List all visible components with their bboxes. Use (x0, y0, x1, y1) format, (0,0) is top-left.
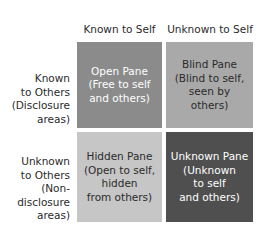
pane-description-line: (Free to self (88, 78, 150, 92)
pane-description-line: from others) (84, 191, 155, 205)
open-pane-text: Open Pane (Free to self and others) (88, 65, 150, 106)
blind-pane-text: Blind Pane (Blind to self, seen by other… (170, 58, 249, 112)
row-label-line: areas) (17, 209, 70, 223)
pane-description-line: to self (171, 177, 249, 191)
row-label-unknown-to-others: Unknown to Others (Non- disclosure areas… (17, 155, 70, 223)
pane-description-line: hidden (84, 177, 155, 191)
pane-title: Unknown Pane (171, 150, 249, 164)
pane-title: Blind Pane (170, 58, 249, 72)
unknown-pane-text: Unknown Pane (Unknown to self and others… (171, 150, 249, 204)
row-label-line: disclosure (17, 196, 70, 210)
pane-description-line: and others) (171, 191, 249, 205)
row-label-line: to Others (12, 86, 70, 100)
row-label-line: (Disclosure (12, 99, 70, 113)
row-label-line: (Non- (17, 182, 70, 196)
hidden-pane: Hidden Pane (Open to self, hidden from o… (77, 132, 162, 222)
pane-description-line: and others) (88, 92, 150, 106)
pane-description-line: (Open to self, (84, 164, 155, 178)
row-label-line: to Others (17, 169, 70, 183)
pane-description-line: (Blind to self, (170, 72, 249, 86)
column-header-known-to-self: Known to Self (77, 22, 162, 36)
pane-description-line: (Unknown (171, 164, 249, 178)
open-pane: Open Pane (Free to self and others) (77, 42, 162, 128)
row-label-known-to-others: Known to Others (Disclosure areas) (12, 72, 70, 126)
blind-pane: Blind Pane (Blind to self, seen by other… (166, 42, 253, 128)
column-header-unknown-to-self: Unknown to Self (163, 22, 257, 36)
row-label-line: Known (12, 72, 70, 86)
row-label-line: Unknown (17, 155, 70, 169)
unknown-pane: Unknown Pane (Unknown to self and others… (166, 132, 253, 222)
hidden-pane-text: Hidden Pane (Open to self, hidden from o… (84, 150, 155, 204)
pane-title: Hidden Pane (84, 150, 155, 164)
pane-title: Open Pane (88, 65, 150, 79)
row-label-line: areas) (12, 113, 70, 127)
pane-description-line: seen by others) (170, 85, 249, 112)
